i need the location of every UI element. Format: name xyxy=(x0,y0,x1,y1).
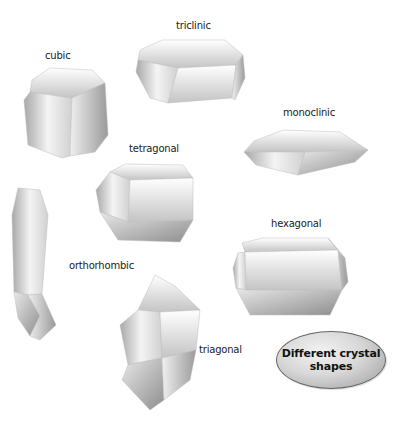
crystal-monoclinic xyxy=(244,130,368,175)
title-badge: Different crystal shapes xyxy=(276,331,386,389)
label-triagonal: triagonal xyxy=(199,344,242,355)
label-cubic: cubic xyxy=(45,50,70,61)
label-hexagonal: hexagonal xyxy=(271,218,321,229)
crystal-cubic xyxy=(24,68,108,158)
crystal-hexagonal xyxy=(233,238,348,315)
label-tetragonal: tetragonal xyxy=(129,143,179,154)
label-monoclinic: monoclinic xyxy=(283,107,335,118)
crystal-orthorhombic xyxy=(12,188,56,340)
crystal-triagonal xyxy=(120,275,200,410)
crystal-tetragonal xyxy=(96,164,193,242)
crystal-triclinic xyxy=(136,40,245,103)
title-text: Different crystal shapes xyxy=(282,347,380,373)
title-line-1: Different crystal xyxy=(282,347,380,360)
label-orthorhombic: orthorhombic xyxy=(69,260,134,271)
label-triclinic: triclinic xyxy=(176,20,211,31)
title-line-2: shapes xyxy=(310,360,352,373)
